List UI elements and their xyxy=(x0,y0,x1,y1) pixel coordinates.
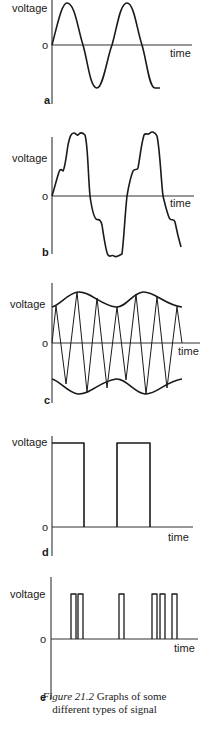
panel-label: d xyxy=(42,546,49,558)
graph-b: voltage o time b xyxy=(12,132,194,258)
y-axis-label: voltage xyxy=(10,588,45,600)
x-axis-label: time xyxy=(168,531,189,543)
caption-figure-number: Figure 21.2 xyxy=(43,690,95,702)
graph-d: voltage o time d xyxy=(12,436,193,558)
square-pulses xyxy=(52,443,150,527)
panel-label: b xyxy=(42,246,49,258)
complex-wave xyxy=(52,132,181,257)
origin-label: o xyxy=(40,633,46,645)
figure-caption: Figure 21.2 Graphs of some different typ… xyxy=(0,690,209,716)
graph-c: voltage o time c xyxy=(10,283,200,406)
x-axis-label: time xyxy=(170,197,191,209)
origin-label: o xyxy=(42,190,48,202)
caption-text-line2: different types of signal xyxy=(0,703,209,716)
pulse-train xyxy=(71,594,177,639)
graph-e: voltage o time e xyxy=(10,577,198,703)
origin-label: o xyxy=(42,337,48,349)
origin-label: o xyxy=(42,39,48,51)
y-axis-label: voltage xyxy=(10,298,45,310)
panel-label: a xyxy=(44,94,51,106)
x-axis-label: time xyxy=(178,345,199,357)
figure-canvas: voltage o time a voltage o time b voltag… xyxy=(0,0,209,738)
graph-a: voltage o time a xyxy=(12,0,192,106)
origin-label: o xyxy=(42,521,48,533)
y-axis-label: voltage xyxy=(12,436,47,448)
y-axis-label: voltage xyxy=(12,152,47,164)
y-axis-label: voltage xyxy=(12,2,47,14)
lower-envelope xyxy=(52,379,182,394)
panel-label: c xyxy=(44,394,50,406)
caption-text: Graphs of some xyxy=(97,690,167,702)
x-axis-label: time xyxy=(170,47,191,59)
x-axis-label: time xyxy=(174,642,195,654)
upper-envelope xyxy=(52,292,182,307)
